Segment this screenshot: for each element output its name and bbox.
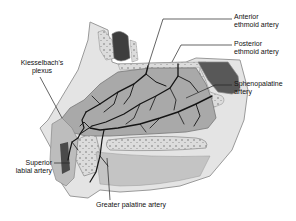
label-line: ethmoid artery [234, 21, 279, 29]
label-anterior-ethmoid-artery: Anterior ethmoid artery [234, 13, 279, 29]
label-line: Greater palatine artery [96, 201, 166, 209]
label-sphenopalatine-artery: Sphenopalatine artery [234, 80, 283, 96]
label-line: Posterior [234, 40, 279, 48]
label-posterior-ethmoid-artery: Posterior ethmoid artery [234, 40, 279, 56]
label-greater-palatine-artery: Greater palatine artery [96, 201, 166, 209]
label-line: ethmoid artery [234, 48, 279, 56]
label-kiesselbachs-plexus: Kiesselbach's plexus [18, 59, 66, 75]
label-line: artery [234, 88, 283, 96]
label-line: labial artery [6, 167, 52, 175]
label-line: Kiesselbach's [18, 59, 66, 67]
label-superior-labial-artery: Superior labial artery [6, 159, 52, 175]
label-line: Anterior [234, 13, 279, 21]
edge-fade [0, 0, 296, 221]
label-line: Sphenopalatine [234, 80, 283, 88]
label-line: plexus [18, 67, 66, 75]
label-line: Superior [6, 159, 52, 167]
nasal-septum-diagram [0, 0, 296, 221]
